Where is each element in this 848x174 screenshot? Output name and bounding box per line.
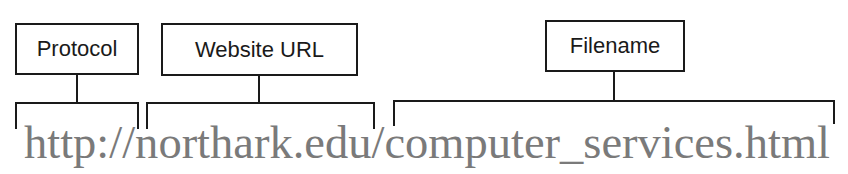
filename-bracket-right: [833, 100, 835, 124]
filename-connector-line: [613, 71, 615, 101]
filename-label-box: Filename: [545, 20, 685, 72]
protocol-label-box: Protocol: [15, 23, 139, 75]
filename-label: Filename: [570, 33, 660, 59]
website-url-label: Website URL: [195, 37, 324, 63]
example-url-text: http://northark.edu/computer_services.ht…: [24, 118, 830, 168]
website-url-bracket-top: [146, 102, 375, 104]
website-url-connector-line: [258, 75, 260, 103]
protocol-label: Protocol: [37, 36, 118, 62]
filename-bracket-top: [393, 100, 835, 102]
protocol-bracket-left: [15, 102, 17, 129]
protocol-bracket-top: [15, 102, 139, 104]
website-url-label-box: Website URL: [161, 23, 358, 76]
url-anatomy-diagram: Protocol Website URL Filename http://nor…: [0, 0, 848, 174]
protocol-connector-line: [76, 74, 78, 103]
